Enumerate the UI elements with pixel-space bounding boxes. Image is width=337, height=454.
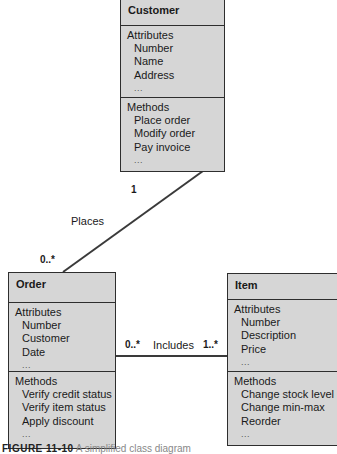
item-attributes-section: Attributes Number Description Price ... bbox=[228, 300, 337, 372]
figure-caption-text: A simplified class diagram bbox=[76, 443, 191, 454]
customer-attributes-label: Attributes bbox=[127, 29, 218, 42]
order-methods-label: Methods bbox=[15, 375, 109, 388]
order-attributes-section: Attributes Number Customer Date ... bbox=[9, 303, 115, 372]
order-class-box: Order Attributes Number Customer Date ..… bbox=[8, 272, 116, 449]
item-methods-label: Methods bbox=[234, 375, 331, 388]
figure-caption: FIGURE 11-10 A simplified class diagram bbox=[2, 443, 191, 454]
customer-class-box: Customer Attributes Number Name Address … bbox=[120, 0, 225, 172]
customer-methods-ellipsis: ... bbox=[127, 154, 218, 167]
customer-method: Place order bbox=[127, 114, 218, 127]
order-method: Verify item status bbox=[15, 401, 109, 414]
includes-item-multiplicity: 1..* bbox=[203, 339, 218, 350]
order-method: Verify credit status bbox=[15, 388, 109, 401]
places-customer-multiplicity: 1 bbox=[131, 184, 137, 195]
item-attribute: Description bbox=[234, 329, 331, 342]
item-method: Reorder bbox=[234, 415, 331, 428]
customer-attribute: Number bbox=[127, 42, 218, 55]
order-attribute: Customer bbox=[15, 332, 109, 345]
item-class-name: Item bbox=[228, 274, 337, 300]
figure-number: FIGURE 11-10 bbox=[2, 443, 74, 454]
item-attributes-label: Attributes bbox=[234, 303, 331, 316]
item-methods-ellipsis: ... bbox=[234, 428, 331, 441]
item-method: Change stock level bbox=[234, 388, 331, 401]
item-attribute: Number bbox=[234, 316, 331, 329]
customer-attributes-section: Attributes Number Name Address ... bbox=[121, 26, 224, 98]
item-attributes-ellipsis: ... bbox=[234, 356, 331, 369]
customer-attribute: Address bbox=[127, 69, 218, 82]
order-attribute: Date bbox=[15, 346, 109, 359]
order-attributes-label: Attributes bbox=[15, 306, 109, 319]
item-class-box: Item Attributes Number Description Price… bbox=[227, 273, 337, 446]
places-order-multiplicity: 0..* bbox=[40, 254, 55, 265]
order-method: Apply discount bbox=[15, 415, 109, 428]
item-attribute: Price bbox=[234, 343, 331, 356]
customer-methods-section: Methods Place order Modify order Pay inv… bbox=[121, 98, 224, 167]
item-methods-section: Methods Change stock level Change min-ma… bbox=[228, 372, 337, 441]
customer-attributes-ellipsis: ... bbox=[127, 82, 218, 95]
customer-methods-label: Methods bbox=[127, 101, 218, 114]
includes-association-label: Includes bbox=[153, 339, 194, 351]
places-association-label: Places bbox=[71, 215, 104, 227]
customer-method: Pay invoice bbox=[127, 141, 218, 154]
order-attributes-ellipsis: ... bbox=[15, 359, 109, 372]
includes-order-multiplicity: 0..* bbox=[125, 339, 140, 350]
customer-attribute: Name bbox=[127, 55, 218, 68]
customer-method: Modify order bbox=[127, 127, 218, 140]
order-attribute: Number bbox=[15, 319, 109, 332]
item-method: Change min-max bbox=[234, 401, 331, 414]
order-methods-ellipsis: ... bbox=[15, 428, 109, 441]
order-class-name: Order bbox=[9, 273, 115, 303]
customer-class-name: Customer bbox=[121, 0, 224, 26]
order-methods-section: Methods Verify credit status Verify item… bbox=[9, 372, 115, 441]
